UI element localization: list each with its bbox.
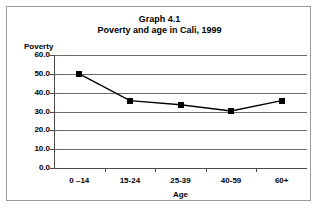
data-point-marker: [279, 98, 285, 104]
chart-title: Graph 4.1: [7, 14, 311, 25]
y-tick-label: 0.0: [24, 163, 50, 172]
data-point-marker: [228, 108, 234, 114]
y-tick-label: 20.0: [24, 125, 50, 134]
y-tick-label: 50.0: [24, 69, 50, 78]
y-tick-label: 10.0: [24, 144, 50, 153]
plot-area: [54, 55, 307, 168]
y-tick-label: 40.0: [24, 88, 50, 97]
data-point-marker: [127, 98, 133, 104]
y-tick-label: 30.0: [24, 107, 50, 116]
data-point-marker: [178, 102, 184, 108]
chart-title-block: Graph 4.1 Poverty and age in Cali, 1999: [7, 14, 311, 36]
data-point-marker: [76, 71, 82, 77]
x-tick-label: 60+: [252, 176, 311, 185]
y-tick-label: 60.0: [24, 50, 50, 59]
x-axis-line: [54, 168, 307, 169]
chart-figure: Graph 4.1 Poverty and age in Cali, 1999 …: [6, 6, 311, 201]
x-axis-title: Age: [54, 190, 307, 199]
chart-subtitle: Poverty and age in Cali, 1999: [7, 25, 311, 36]
series-line-poverty: [54, 55, 307, 168]
